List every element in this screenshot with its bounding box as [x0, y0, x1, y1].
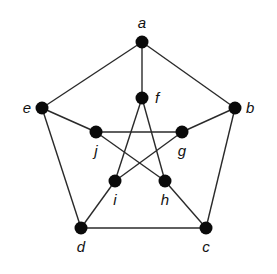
- node-layer: [36, 36, 242, 235]
- node-label-h: h: [161, 191, 169, 208]
- node-label-d: d: [77, 238, 86, 255]
- edge-e-j: [42, 108, 96, 132]
- edge-f-i: [115, 98, 142, 181]
- edge-b-g: [182, 108, 235, 132]
- node-label-b: b: [246, 99, 254, 116]
- node-f: [136, 92, 149, 105]
- node-d: [75, 222, 88, 235]
- edge-d-i: [81, 181, 115, 228]
- edge-d-e: [42, 108, 81, 228]
- node-j: [90, 126, 103, 139]
- node-e: [36, 102, 49, 115]
- node-label-e: e: [23, 99, 31, 116]
- edge-e-a: [42, 42, 142, 108]
- node-h: [159, 175, 172, 188]
- edge-c-h: [165, 181, 206, 228]
- node-label-g: g: [178, 142, 187, 159]
- label-layer: abcdefghij: [23, 14, 255, 255]
- node-i: [109, 175, 122, 188]
- petersen-graph-diagram: abcdefghij: [0, 0, 277, 274]
- edge-j-h: [96, 132, 165, 181]
- edge-f-h: [142, 98, 165, 181]
- edge-layer: [42, 42, 235, 228]
- edge-g-i: [115, 132, 182, 181]
- node-label-j: j: [92, 142, 98, 159]
- node-label-i: i: [113, 191, 117, 208]
- node-label-c: c: [202, 238, 210, 255]
- edge-b-c: [206, 108, 235, 228]
- node-c: [200, 222, 213, 235]
- node-label-a: a: [138, 14, 146, 31]
- node-b: [229, 102, 242, 115]
- node-label-f: f: [155, 89, 161, 106]
- node-g: [176, 126, 189, 139]
- node-a: [136, 36, 149, 49]
